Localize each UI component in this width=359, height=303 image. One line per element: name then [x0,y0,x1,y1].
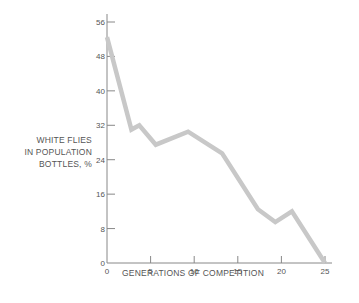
y-tick-label: 32 [96,121,105,130]
x-tick-label: 20 [277,267,286,276]
y-axis-label: WHITE FLIES IN POPULATION BOTTLES, % [20,134,92,170]
x-axis-label: GENERATIONS OF COMPETITION [122,268,264,278]
data-line [107,37,325,263]
y-tick-label: 16 [96,190,105,199]
x-tick-label: 0 [105,267,110,276]
y-axis-label-line-3: BOTTLES, % [20,158,92,170]
y-tick-label: 56 [96,18,105,27]
x-tick-label: 25 [321,267,330,276]
y-tick-label: 40 [96,87,105,96]
y-tick-label: 24 [96,156,105,165]
y-tick-label: 48 [96,52,105,61]
y-axis-label-line-1: WHITE FLIES [20,134,92,146]
axes [107,14,332,263]
y-axis-label-line-2: IN POPULATION [20,146,92,158]
y-tick-label: 8 [101,225,106,234]
